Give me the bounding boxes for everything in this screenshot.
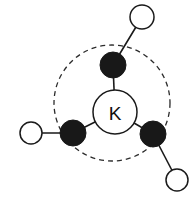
filled-atom-lower-left (60, 120, 86, 146)
molecular-diagram: K (0, 0, 194, 198)
open-atom-top-right (130, 5, 154, 29)
center-atom-label: K (109, 103, 122, 124)
filled-atom-lower-right (140, 121, 166, 147)
filled-atom-top (100, 52, 126, 78)
open-atom-left (20, 122, 42, 144)
diagram-canvas: K (0, 0, 194, 198)
open-atom-bottom-right (166, 169, 188, 191)
